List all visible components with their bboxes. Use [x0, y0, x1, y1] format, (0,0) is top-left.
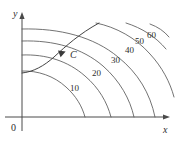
- origin-label: 0: [11, 122, 16, 133]
- curve-c-label: C: [70, 49, 77, 60]
- contour-figure: 10 20 30 40 50 60 C y x 0: [0, 0, 177, 147]
- curve-c-direction-arrowhead: [58, 51, 66, 58]
- contour-line-20: [22, 55, 111, 117]
- y-axis-label: y: [12, 8, 18, 19]
- figure-canvas: 10 20 30 40 50 60 C y x 0: [0, 0, 177, 147]
- x-axis-label: x: [162, 124, 168, 135]
- contour-label-20: 20: [92, 68, 102, 78]
- contour-label-30: 30: [111, 55, 121, 65]
- y-axis-arrowhead: [19, 12, 24, 19]
- curve-c-path: [22, 23, 99, 73]
- contour-label-60: 60: [147, 30, 157, 40]
- contour-label-40: 40: [125, 45, 135, 55]
- contour-line-30: [22, 41, 134, 117]
- x-axis-arrowhead: [163, 114, 170, 119]
- contour-label-10: 10: [70, 83, 80, 93]
- curve-c-group: [22, 23, 99, 73]
- contour-label-50: 50: [135, 36, 145, 46]
- contour-line-50: [96, 23, 174, 97]
- contour-line-10: [22, 71, 85, 117]
